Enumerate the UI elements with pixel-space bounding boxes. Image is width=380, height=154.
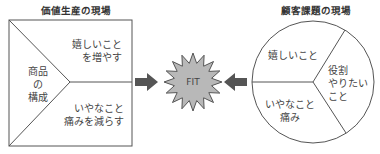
pains-label: いやなこと 痛み [264, 98, 316, 124]
product-label: 商品 の 構成 [20, 65, 56, 104]
gain-line: 嬉しいこと [72, 38, 122, 51]
fit-label: FIT [176, 76, 210, 89]
gain-line: を増やす [72, 51, 122, 64]
jobs-line: 役割 [328, 64, 368, 77]
customer-jobs-label: 役割 やりたい こと [328, 64, 368, 103]
pain-line: いやなこと [62, 102, 124, 115]
left-panel-title: 価値生産の現場 [41, 3, 111, 17]
pains-line: いやなこと [264, 98, 316, 111]
jobs-line: こと [328, 90, 368, 103]
product-line: の [20, 78, 56, 91]
right-panel-title: 顧客課題の現場 [281, 3, 351, 17]
product-line: 構成 [20, 91, 56, 104]
jobs-line: やりたい [328, 77, 368, 90]
arrow-left-icon [224, 73, 247, 91]
pains-line: 痛み [264, 111, 316, 124]
gain-creator-label: 嬉しいこと を増やす [72, 38, 122, 64]
gains-label: 嬉しいこと [268, 49, 318, 62]
gains-line: 嬉しいこと [268, 49, 318, 62]
pain-reliever-label: いやなこと 痛みを減らす [62, 102, 124, 128]
product-line: 商品 [20, 65, 56, 78]
arrow-right-icon [135, 73, 158, 91]
pain-line: 痛みを減らす [62, 115, 124, 128]
